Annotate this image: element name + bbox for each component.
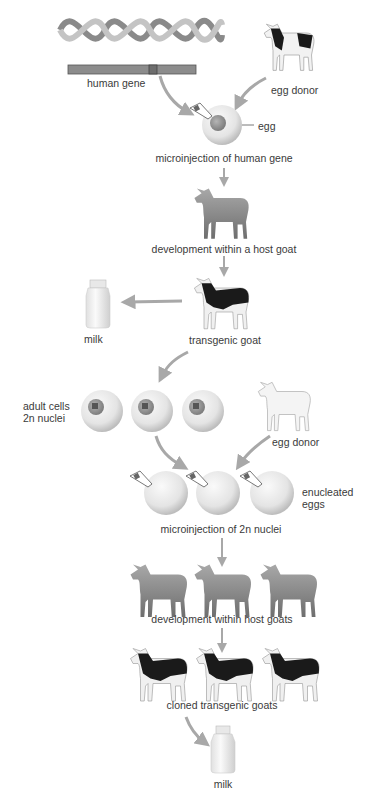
arrow-to-adult-cells (162, 352, 188, 376)
label-transgenic-goat: transgenic goat (189, 334, 261, 346)
label-egg-donor-2: egg donor (272, 436, 319, 448)
arrow-donor-to-eggs (240, 436, 270, 464)
egg-cell-icon (202, 105, 254, 145)
label-microinjection-human-gene: microinjection of human gene (155, 152, 292, 164)
adult-cell-icon (182, 390, 224, 432)
label-cloned-transgenic-goats: cloned transgenic goats (167, 699, 278, 711)
gene-bar (68, 65, 196, 74)
label-2n-nuclei: 2n nuclei (23, 412, 65, 424)
egg-donor-goat-icon (258, 382, 310, 430)
host-goat-icon (261, 565, 318, 618)
arrow-gene-to-egg (160, 76, 188, 112)
cloned-goat-icon (197, 649, 254, 702)
label-adult-cells: adult cells (23, 400, 70, 412)
dna-helix-icon (60, 21, 222, 40)
adult-cell-icon (81, 390, 123, 432)
milk-bottle-icon (211, 726, 235, 773)
host-goat-icon (131, 565, 188, 618)
arrow-to-milk-2 (186, 717, 204, 742)
arrow-cells-to-eggs (156, 436, 182, 466)
adult-cell-icon (131, 390, 173, 432)
label-egg: egg (258, 120, 276, 132)
milk-bottle-icon (86, 280, 110, 328)
transgenic-goat-icon (194, 278, 248, 328)
host-goat-icon (194, 188, 248, 238)
micropipette-icon (130, 471, 152, 487)
label-milk-1: milk (84, 333, 103, 345)
label-human-gene: human gene (87, 77, 145, 89)
cloned-goat-icon (263, 649, 320, 702)
label-eggs: eggs (302, 498, 325, 510)
label-development-host-goat: development within a host goat (152, 243, 297, 255)
arrow-donor-to-egg (238, 78, 266, 104)
label-development-host-goats: development within host goats (151, 613, 292, 625)
cloned-goat-icon (131, 649, 188, 702)
host-goat-icon (195, 565, 252, 618)
label-enucleated: enucleated (302, 486, 353, 498)
arrow-to-milk-1 (128, 301, 182, 302)
label-egg-donor-1: egg donor (271, 84, 318, 96)
egg-donor-goat-icon (264, 24, 314, 70)
enucleated-egg-icon (144, 471, 188, 515)
label-microinjection-2n: microinjection of 2n nuclei (161, 523, 282, 535)
label-milk-2: milk (214, 778, 233, 790)
